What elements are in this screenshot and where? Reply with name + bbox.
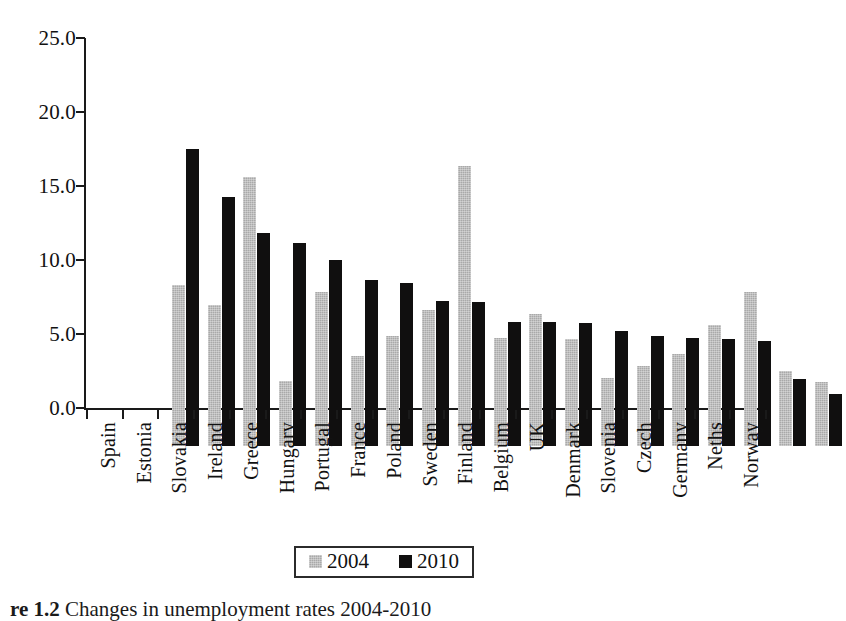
x-label-slot: Finland <box>443 420 479 515</box>
x-axis-category-label: UK <box>527 422 547 451</box>
bar-group <box>494 76 530 446</box>
x-label-slot: Estonia <box>122 420 158 515</box>
x-tick-mark <box>622 410 624 419</box>
plot-area <box>84 38 767 410</box>
x-tick-mark <box>408 410 410 419</box>
black-swatch <box>399 555 412 568</box>
x-tick-mark <box>300 410 302 419</box>
bar-group <box>637 76 673 446</box>
x-axis-category-label: Spain <box>98 422 118 469</box>
bar-group <box>601 76 637 446</box>
x-label-slot: Czech <box>622 420 658 515</box>
bar-group <box>351 76 387 446</box>
bar-group <box>708 76 744 446</box>
x-tick-mark <box>515 410 517 419</box>
x-axis-category-label: Estonia <box>134 422 154 483</box>
x-axis-category-label: Finland <box>455 422 475 485</box>
grey-swatch <box>309 555 322 568</box>
x-label-slot: Belgium <box>479 420 515 515</box>
bar-group <box>565 76 601 446</box>
x-tick-mark <box>586 410 588 419</box>
x-tick-mark <box>443 410 445 419</box>
x-axis-category-label: Greece <box>241 422 261 480</box>
bar-group <box>779 76 815 446</box>
bar-group <box>279 76 315 446</box>
x-axis-category-label: Poland <box>384 422 404 479</box>
x-axis-category-label: Germany <box>670 422 690 498</box>
x-label-slot: Sweden <box>408 420 444 515</box>
legend-entry: 2010 <box>399 551 459 572</box>
x-tick-mark <box>86 410 88 419</box>
x-label-slot: Slovakia <box>157 420 193 515</box>
chart-legend: 20042010 <box>294 546 474 578</box>
x-axis-category-label: Czech <box>634 422 654 473</box>
caption-text: Changes in unemployment rates 2004-2010 <box>65 597 431 621</box>
legend-entry: 2004 <box>309 551 369 572</box>
x-label-slot: Spain <box>86 420 122 515</box>
x-label-slot: Greece <box>229 420 265 515</box>
x-axis-category-label: Neths <box>705 422 725 470</box>
x-label-slot: France <box>336 420 372 515</box>
x-tick-mark <box>729 410 731 419</box>
x-label-slot: Slovenia <box>586 420 622 515</box>
y-tick-label: 5.0 <box>0 324 76 345</box>
legend-label: 2004 <box>327 551 369 572</box>
y-tick-label: 20.0 <box>0 102 76 123</box>
bar-2004 <box>815 382 828 446</box>
x-axis-category-label: Denmark <box>563 422 583 498</box>
bar-2010 <box>793 379 806 446</box>
x-axis-category-label: Slovenia <box>598 422 618 494</box>
x-tick-mark <box>336 410 338 419</box>
y-tick-label: 0.0 <box>0 398 76 419</box>
x-tick-mark <box>122 410 124 419</box>
bars-layer <box>172 76 846 446</box>
x-axis-ticks <box>84 410 765 420</box>
bar-group <box>529 76 565 446</box>
bar-2004 <box>779 371 792 446</box>
x-label-slot: Neths <box>693 420 729 515</box>
bar-group <box>672 76 708 446</box>
x-tick-mark <box>479 410 481 419</box>
bar-group <box>386 76 422 446</box>
bar-2010 <box>829 394 842 446</box>
x-axis-category-label: Belgium <box>491 422 511 492</box>
x-tick-mark <box>193 410 195 419</box>
x-label-slot: Portugal <box>300 420 336 515</box>
x-tick-mark <box>229 410 231 419</box>
x-axis-category-label: Hungary <box>277 422 297 493</box>
x-axis-category-label: Slovakia <box>169 422 189 494</box>
bar-group <box>422 76 458 446</box>
bar-2004 <box>458 166 471 446</box>
bar-group <box>208 76 244 446</box>
bar-group <box>744 76 780 446</box>
x-axis-category-label: France <box>348 422 368 478</box>
x-axis-category-label: Ireland <box>205 422 225 480</box>
legend-label: 2010 <box>417 551 459 572</box>
x-tick-mark <box>765 410 767 419</box>
x-label-slot: Germany <box>658 420 694 515</box>
x-tick-mark <box>694 410 696 419</box>
bar-group <box>315 76 351 446</box>
x-axis-labels: SpainEstoniaSlovakiaIrelandGreeceHungary… <box>86 420 765 515</box>
y-tick-label: 10.0 <box>0 250 76 271</box>
x-tick-mark <box>551 410 553 419</box>
caption-number: re 1.2 <box>10 597 60 621</box>
bar-group <box>243 76 279 446</box>
x-label-slot: UK <box>515 420 551 515</box>
x-tick-mark <box>658 410 660 419</box>
figure-caption: re 1.2 Changes in unemployment rates 200… <box>10 597 431 621</box>
bar-group <box>458 76 494 446</box>
x-tick-mark <box>372 410 374 419</box>
x-label-slot: Hungary <box>265 420 301 515</box>
x-label-slot: Poland <box>372 420 408 515</box>
x-axis-category-label: Sweden <box>420 422 440 487</box>
bar-2010 <box>222 197 235 446</box>
x-label-slot: Norway <box>729 420 765 515</box>
bar-group <box>815 76 846 446</box>
bar-2010 <box>186 149 199 446</box>
x-axis-category-label: Norway <box>741 422 761 488</box>
y-tick-label: 25.0 <box>0 28 76 49</box>
x-label-slot: Denmark <box>551 420 587 515</box>
x-axis-category-label: Portugal <box>312 422 332 491</box>
